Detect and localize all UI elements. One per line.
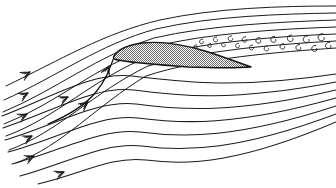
airfoil-flow-figure bbox=[0, 0, 336, 188]
flow-diagram-svg bbox=[0, 0, 336, 188]
